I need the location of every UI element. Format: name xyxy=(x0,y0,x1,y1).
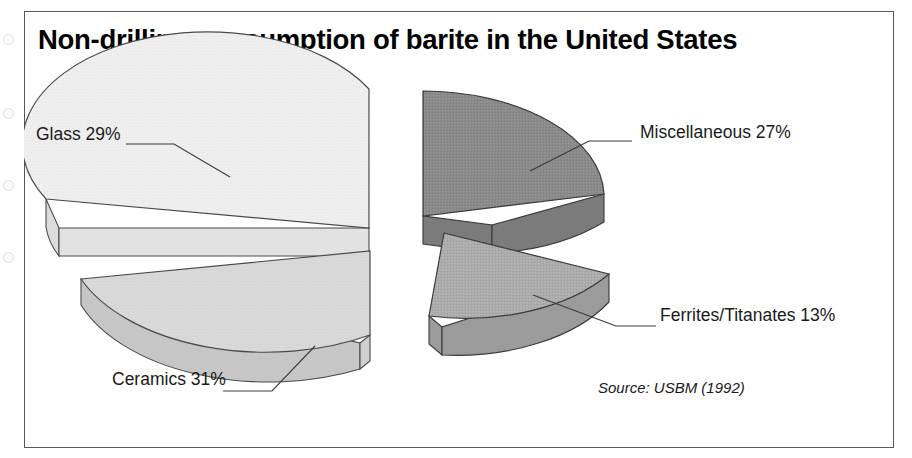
scan-speck xyxy=(3,252,14,263)
pie-label-miscellaneous: Miscellaneous 27% xyxy=(640,122,791,143)
scan-speck xyxy=(3,108,14,119)
pie-label-ceramics: Ceramics 31% xyxy=(112,369,226,390)
scan-edge-artifacts xyxy=(0,0,22,458)
pie-label-glass: Glass 29% xyxy=(36,124,121,145)
pie-label-ferrites-titanates: Ferrites/Titanates 13% xyxy=(660,305,835,326)
pie-slice-ferrites-titanates[interactable] xyxy=(429,233,609,355)
pie-slice-ceramics[interactable] xyxy=(81,251,370,382)
source-note: Source: USBM (1992) xyxy=(598,379,745,396)
scan-speck xyxy=(3,34,14,45)
pie-slice-miscellaneous[interactable] xyxy=(423,91,604,253)
scan-speck xyxy=(3,180,14,191)
